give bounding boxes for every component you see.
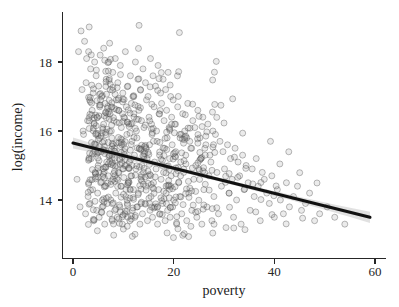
chart-canvas: 0204060 141618 poverty log(income) [0, 0, 399, 307]
scatter-point [157, 107, 163, 113]
scatter-point [317, 211, 323, 217]
scatter-point [120, 96, 126, 102]
scatter-point [132, 231, 138, 237]
scatter-point [118, 183, 124, 189]
x-tick-label: 20 [167, 264, 180, 279]
scatter-point [158, 176, 164, 182]
scatter-point [213, 58, 219, 64]
scatter-point [92, 198, 98, 204]
scatter-point [230, 96, 236, 102]
scatter-point [190, 202, 196, 208]
scatter-point [85, 189, 91, 195]
scatter-point [176, 179, 182, 185]
scatter-point [277, 161, 283, 167]
scatter-point [139, 211, 145, 217]
scatter-point [167, 214, 173, 220]
scatter-point [283, 180, 289, 186]
scatter-point [94, 115, 100, 121]
scatter-point [125, 180, 131, 186]
scatter-point [86, 118, 92, 124]
scatter-point [103, 132, 109, 138]
scatter-point [89, 100, 95, 106]
scatter-point [90, 207, 96, 213]
scatter-point [183, 191, 189, 197]
scatter-point [161, 118, 167, 124]
scatter-point [193, 188, 199, 194]
scatter-point [217, 138, 223, 144]
scatter-point [111, 232, 117, 238]
scatter-point [86, 24, 92, 30]
scatter-point [211, 69, 217, 75]
scatter-point [164, 107, 170, 113]
scatter-point [77, 204, 83, 210]
scatter-point [140, 66, 146, 72]
scatter-point [104, 91, 110, 97]
scatter-point [172, 200, 178, 206]
scatter-point [149, 101, 155, 107]
scatter-point [177, 194, 183, 200]
scatter-point [140, 181, 146, 187]
scatter-point [212, 131, 218, 137]
scatter-point [93, 131, 99, 137]
scatter-point [107, 111, 113, 117]
scatter-point [127, 186, 133, 192]
scatter-point [167, 205, 173, 211]
scatter-point [135, 45, 141, 51]
scatter-point [131, 94, 137, 100]
scatter-point [134, 204, 140, 210]
y-tick-label: 18 [39, 55, 52, 70]
scatter-point [185, 125, 191, 131]
scatter-point [188, 223, 194, 229]
scatter-point [195, 208, 201, 214]
scatter-point [332, 214, 338, 220]
x-tick-label: 60 [369, 264, 382, 279]
scatter-point [166, 182, 172, 188]
scatter-point [150, 214, 156, 220]
scatter-point [102, 221, 108, 227]
scatter-point [113, 190, 119, 196]
scatter-point [138, 87, 144, 93]
scatter-point [109, 216, 115, 222]
scatter-point [155, 221, 161, 227]
scatter-point [170, 97, 176, 103]
scatter-point [100, 126, 106, 132]
scatter-point [127, 73, 133, 79]
scatter-point [176, 69, 182, 75]
scatter-point [266, 200, 272, 206]
scatter-point [257, 218, 263, 224]
scatter-point [106, 76, 112, 82]
scatter-point [127, 195, 133, 201]
scatter-point [185, 178, 191, 184]
scatter-point [299, 207, 305, 213]
scatter-point [172, 150, 178, 156]
scatter-point [175, 104, 181, 110]
scatter-point [175, 93, 181, 99]
scatter-point [107, 40, 113, 46]
scatter-point [190, 118, 196, 124]
scatter-point [92, 59, 98, 65]
scatter-point [242, 227, 248, 233]
scatter-point [226, 190, 232, 196]
scatter-point [149, 130, 155, 136]
scatter-point [124, 202, 130, 208]
scatter-point [214, 205, 220, 211]
scatter-point [259, 169, 265, 175]
scatter-point [231, 214, 237, 220]
scatter-point [98, 209, 104, 215]
scatter-point [151, 190, 157, 196]
scatter-point [83, 211, 89, 217]
scatter-point [234, 197, 240, 203]
scatter-point [155, 204, 161, 210]
scatter-point [220, 149, 226, 155]
scatter-point [187, 185, 193, 191]
scatter-point [175, 226, 181, 232]
scatter-point [273, 183, 279, 189]
scatter-point [240, 130, 246, 136]
scatter-point [212, 101, 218, 107]
scatter-point [227, 204, 233, 210]
scatter-point [95, 190, 101, 196]
scatter-point [195, 107, 201, 113]
scatter-point [238, 221, 244, 227]
scatter-point [199, 124, 205, 130]
scatter-point [169, 142, 175, 148]
